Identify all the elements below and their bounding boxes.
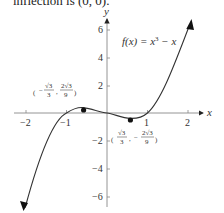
y-tick-label: 2 [98, 80, 103, 91]
local-max-point [81, 107, 86, 112]
svg-text:): ) [74, 89, 77, 97]
local-min-point [128, 117, 133, 122]
local-max-label: ( − √3 3 , 2√3 9 ) [33, 82, 77, 99]
x-tick-label: 2 [185, 117, 190, 128]
local-min-label: ( √3 3 , − 2√3 9 ) [111, 129, 158, 146]
x-axis-label: x [206, 106, 212, 118]
function-graph: −2 −1 1 2 6 4 2 −2 −4 −6 x y f(x) = x3 −… [0, 0, 224, 213]
y-tick-label: −2 [92, 135, 103, 146]
function-label: f(x) = x3 − x [122, 35, 177, 48]
y-axis-label: y [103, 5, 109, 17]
svg-text:−: − [134, 134, 138, 142]
x-tick-label: −1 [60, 117, 71, 128]
svg-text:3: 3 [120, 138, 124, 146]
svg-text:9: 9 [64, 91, 68, 99]
svg-text:2√3: 2√3 [61, 82, 72, 90]
svg-text:,: , [129, 135, 131, 143]
svg-text:√3: √3 [118, 129, 126, 137]
svg-text:): ) [155, 136, 158, 144]
y-tick-label: 6 [98, 24, 103, 35]
svg-text:√3: √3 [45, 82, 53, 90]
x-tick-label: 1 [144, 117, 149, 128]
svg-text:(: ( [111, 136, 114, 144]
svg-text:−: − [39, 87, 43, 95]
x-tick-label: −2 [20, 117, 31, 128]
svg-text:2√3: 2√3 [142, 129, 153, 137]
svg-text:3: 3 [47, 91, 51, 99]
svg-text:(: ( [33, 89, 36, 97]
svg-text:9: 9 [145, 138, 149, 146]
svg-text:,: , [56, 88, 58, 96]
y-tick-label: 4 [98, 52, 103, 63]
y-tick-label: −6 [92, 191, 103, 202]
function-curve [25, 24, 190, 208]
y-tick-label: −4 [92, 163, 103, 174]
curve-arrow-up-icon [186, 19, 194, 30]
